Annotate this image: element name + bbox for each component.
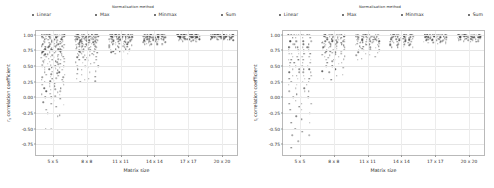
data-point — [338, 63, 340, 65]
data-point — [308, 43, 310, 45]
y-gridline — [36, 82, 237, 83]
data-point — [288, 59, 290, 61]
y-tick-mark — [34, 34, 36, 35]
legend-item-sum[interactable]: Sum — [468, 12, 483, 18]
data-point — [304, 87, 306, 89]
data-point — [410, 41, 412, 43]
y-tick-label: 1.00 — [270, 32, 280, 37]
data-point — [341, 53, 343, 55]
legend-item-linear[interactable]: Linear — [32, 12, 51, 18]
x-tick-label: 5 x 5 — [47, 159, 58, 164]
data-point — [131, 45, 133, 47]
y-gridline — [283, 35, 484, 36]
data-point — [162, 44, 164, 46]
x-tick-mark — [53, 155, 54, 157]
data-point — [301, 119, 303, 121]
y-tick-label: 0.00 — [270, 95, 280, 100]
data-point — [323, 78, 325, 80]
x-gridline — [53, 31, 54, 155]
x-gridline — [188, 31, 189, 155]
data-point — [47, 53, 49, 55]
data-point — [75, 48, 77, 50]
y-tick-label: 0.25 — [23, 79, 33, 84]
data-point — [45, 56, 47, 58]
y-gridline — [283, 144, 484, 145]
data-point — [89, 72, 91, 74]
legend-item-max[interactable]: Max — [95, 12, 109, 18]
panel-right: Normalisation method Linear Max Minmax S… — [247, 0, 494, 188]
data-point — [369, 40, 371, 42]
data-point — [44, 42, 46, 44]
legend-item-sum[interactable]: Sum — [221, 12, 236, 18]
data-point — [182, 40, 184, 42]
data-point — [114, 53, 116, 55]
data-point — [95, 70, 97, 72]
data-point — [302, 37, 304, 39]
y-tick-label: 0.50 — [23, 64, 33, 69]
data-point — [343, 67, 345, 69]
data-point — [302, 62, 304, 64]
x-tick-label: 14 x 14 — [393, 159, 410, 164]
data-point — [191, 37, 193, 39]
data-point — [57, 55, 59, 57]
y-tick-mark — [281, 34, 283, 35]
legend-right: Normalisation method Linear Max Minmax S… — [269, 5, 491, 29]
data-point — [303, 68, 305, 70]
data-point — [344, 41, 346, 43]
data-point — [372, 42, 374, 44]
y-tick-mark — [34, 97, 36, 98]
y-tick-mark — [281, 113, 283, 114]
data-point — [478, 40, 480, 42]
data-point — [44, 59, 46, 61]
data-point — [475, 41, 477, 43]
data-point — [124, 44, 126, 46]
y-tick-label: -0.75 — [269, 142, 280, 147]
data-point — [326, 62, 328, 64]
data-point — [82, 57, 84, 59]
data-point — [360, 42, 362, 44]
x-gridline — [368, 31, 369, 155]
legend-label-linear: Linear — [284, 12, 298, 18]
data-point — [288, 84, 290, 86]
data-point — [458, 40, 460, 42]
y-tick-label: 0.00 — [23, 95, 33, 100]
data-point — [59, 72, 61, 74]
data-point — [127, 53, 129, 55]
legend-item-minmax[interactable]: Minmax — [401, 12, 424, 18]
data-point — [49, 83, 51, 85]
x-tick-mark — [334, 155, 335, 157]
data-point — [198, 38, 200, 40]
data-point — [355, 44, 357, 46]
data-point — [95, 56, 97, 58]
x-tick-mark — [469, 155, 470, 157]
data-point — [79, 37, 81, 39]
data-point — [78, 59, 80, 61]
data-point — [57, 75, 59, 77]
data-point — [340, 38, 342, 40]
legend-item-minmax[interactable]: Minmax — [154, 12, 177, 18]
x-gridline — [87, 31, 88, 155]
data-point — [361, 58, 363, 60]
data-point — [378, 45, 380, 47]
data-point — [158, 38, 160, 40]
data-point — [294, 43, 296, 45]
legend-item-linear[interactable]: Linear — [279, 12, 298, 18]
legend-item-max[interactable]: Max — [342, 12, 356, 18]
data-point — [289, 109, 291, 111]
data-point — [292, 56, 294, 58]
data-point — [63, 84, 65, 86]
data-point — [301, 109, 303, 111]
data-point — [296, 84, 298, 86]
data-point — [325, 59, 327, 61]
y-axis-label-sub: s — [8, 118, 12, 120]
x-tick-label: 5 x 5 — [294, 159, 305, 164]
data-point — [309, 62, 311, 64]
data-point — [375, 47, 377, 49]
data-point — [229, 39, 231, 41]
data-point — [330, 79, 332, 81]
data-point — [404, 40, 406, 42]
x-gridline — [435, 31, 436, 155]
x-gridline — [222, 31, 223, 155]
data-point — [297, 47, 299, 49]
y-tick-label: 0.75 — [23, 48, 33, 53]
